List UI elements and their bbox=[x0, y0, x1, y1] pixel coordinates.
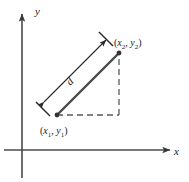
point-1-marker bbox=[55, 113, 60, 118]
y-axis-label: y bbox=[35, 6, 40, 17]
dimension-line bbox=[44, 40, 106, 102]
point-1-paren-close: ) bbox=[64, 125, 67, 136]
hypotenuse-segment bbox=[57, 53, 119, 115]
dimension-tick-upper bbox=[99, 32, 113, 46]
point-2-paren-close: ) bbox=[138, 37, 141, 48]
dimension-tick-lower bbox=[36, 102, 50, 116]
distance-formula-figure: y x (x2, y2) (x1, y1) d bbox=[0, 0, 189, 182]
point-2-label: (x2, y2) bbox=[114, 38, 142, 48]
point-2-marker bbox=[117, 51, 122, 56]
figure-canvas bbox=[0, 0, 189, 182]
x-axis-label: x bbox=[174, 146, 179, 157]
point-1-label: (x1, y1) bbox=[40, 126, 68, 136]
